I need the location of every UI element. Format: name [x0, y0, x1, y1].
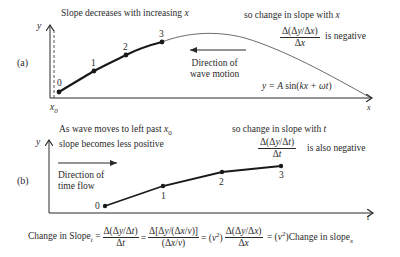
fraction-denominator: Δt — [271, 149, 284, 160]
point-label-b1: 1 — [161, 191, 166, 201]
slope-change-x-fraction: Δ(Δy/Δx) Δx — [280, 26, 320, 49]
panel-b-points — [103, 164, 283, 208]
fraction-numerator: Δ(Δy/Δx) — [280, 26, 320, 38]
wave-equation: y = A sin(kx + ωt) — [262, 81, 332, 92]
time-direction-label: Direction of time flow — [58, 170, 104, 192]
point-label-a1: 1 — [91, 58, 96, 68]
point-label-a2: 2 — [123, 42, 128, 52]
panel-a-points — [57, 40, 165, 95]
y-axis-label-b: y — [36, 137, 40, 148]
panel-b-note: As wave moves to left past x0 slope beco… — [59, 124, 172, 150]
panel-b-label: (b) — [17, 175, 29, 186]
x-axis-label-a: x — [367, 102, 371, 113]
panel-a-title: Slope decreases with increasing x — [61, 8, 189, 19]
fraction-numerator: Δ(Δy/Δt) — [258, 137, 296, 149]
bottom-equation: Change in Slopet = Δ(Δy/Δt) Δt = Δ[Δy/(Δ… — [28, 226, 353, 249]
point-label-b2: 2 — [219, 177, 224, 187]
eq-fraction-2: Δ[Δy/(Δx/v)] (Δx/v) — [148, 226, 199, 249]
point-label-a3: 3 — [159, 29, 164, 39]
wave-direction-label: Direction of wave motion — [190, 58, 239, 80]
panel-b-fraction-suffix: is also negative — [307, 143, 366, 154]
panel-a-fraction-suffix: is negative — [325, 31, 366, 42]
panel-a-right-note: so change in slope with x — [244, 10, 340, 21]
eq-fraction-1: Δ(Δy/Δt) Δt — [103, 226, 139, 249]
point-label-b3: 3 — [279, 170, 284, 180]
panel-a-label: (a) — [17, 57, 28, 68]
sine-wave-highlight — [59, 42, 162, 92]
fraction-denominator: Δx — [293, 38, 307, 49]
slope-change-t-fraction: Δ(Δy/Δt) Δt — [258, 137, 296, 160]
point-label-a0: 0 — [57, 78, 62, 88]
t-axis-label: t — [367, 212, 369, 223]
eq-lhs: Change in Slopet = — [28, 231, 101, 244]
y-axis-label-a: y — [37, 21, 41, 32]
x0-label: x0 — [50, 102, 58, 117]
eq-fraction-3: Δ(Δy/Δx) Δx — [225, 226, 263, 249]
point-label-b0: 0 — [95, 201, 100, 211]
panel-b-right-note: so change in slope with t — [232, 124, 326, 135]
slope-vs-time-line — [105, 166, 281, 206]
